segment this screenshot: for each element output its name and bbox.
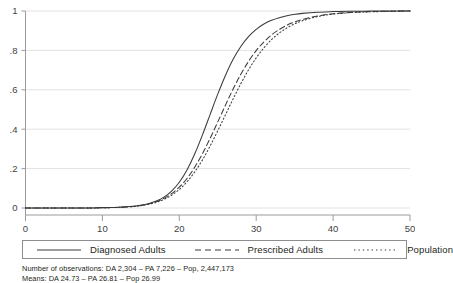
y-tick-label: .8 — [10, 45, 18, 56]
x-tick-label: 20 — [174, 223, 185, 232]
y-tick-label: .4 — [10, 124, 18, 135]
legend-item-population: Population — [353, 241, 453, 258]
legend-label-prescribed-adults: Prescribed Adults — [248, 244, 324, 255]
y-axis — [22, 11, 26, 215]
y-tick-label: .2 — [10, 163, 18, 174]
x-tick-label: 30 — [251, 223, 262, 232]
x-tick-label: 10 — [97, 223, 108, 232]
y-tick-label: 1 — [12, 5, 17, 16]
legend-label-diagnosed-adults: Diagnosed Adults — [90, 244, 166, 255]
x-tick-label: 40 — [328, 223, 339, 232]
footnote-observations: Number of observations: DA 2,304 – PA 7,… — [22, 264, 412, 274]
y-tick-label: .6 — [10, 84, 18, 95]
gridlines — [26, 11, 411, 208]
plot-area: 0.2.4.6.81 01020304050 — [0, 0, 415, 232]
series-line-population — [26, 11, 411, 208]
chart-footnotes: Number of observations: DA 2,304 – PA 7,… — [22, 264, 412, 283]
series-line-prescribed-adults — [26, 11, 411, 208]
legend-item-prescribed-adults: Prescribed Adults — [194, 241, 324, 258]
x-tick-label: 50 — [405, 223, 415, 232]
legend-label-population: Population — [407, 244, 453, 255]
series-line-diagnosed-adults — [26, 11, 411, 208]
legend-key-solid-icon — [36, 245, 82, 255]
footnote-means: Means: DA 24.73 – PA 26.81 – Pop 26.99 — [22, 274, 412, 283]
legend-item-diagnosed-adults: Diagnosed Adults — [36, 241, 166, 258]
legend-key-dashed-icon — [194, 245, 240, 255]
x-tick-label: 0 — [23, 223, 28, 232]
data-series-group — [26, 11, 411, 208]
y-tick-labels: 0.2.4.6.81 — [10, 5, 18, 213]
chart-legend: Diagnosed Adults Prescribed Adults Popul… — [22, 240, 407, 259]
x-tick-labels: 01020304050 — [23, 223, 415, 232]
y-tick-label: 0 — [12, 202, 17, 213]
legend-key-dotted-icon — [353, 245, 399, 255]
x-axis — [26, 215, 411, 221]
